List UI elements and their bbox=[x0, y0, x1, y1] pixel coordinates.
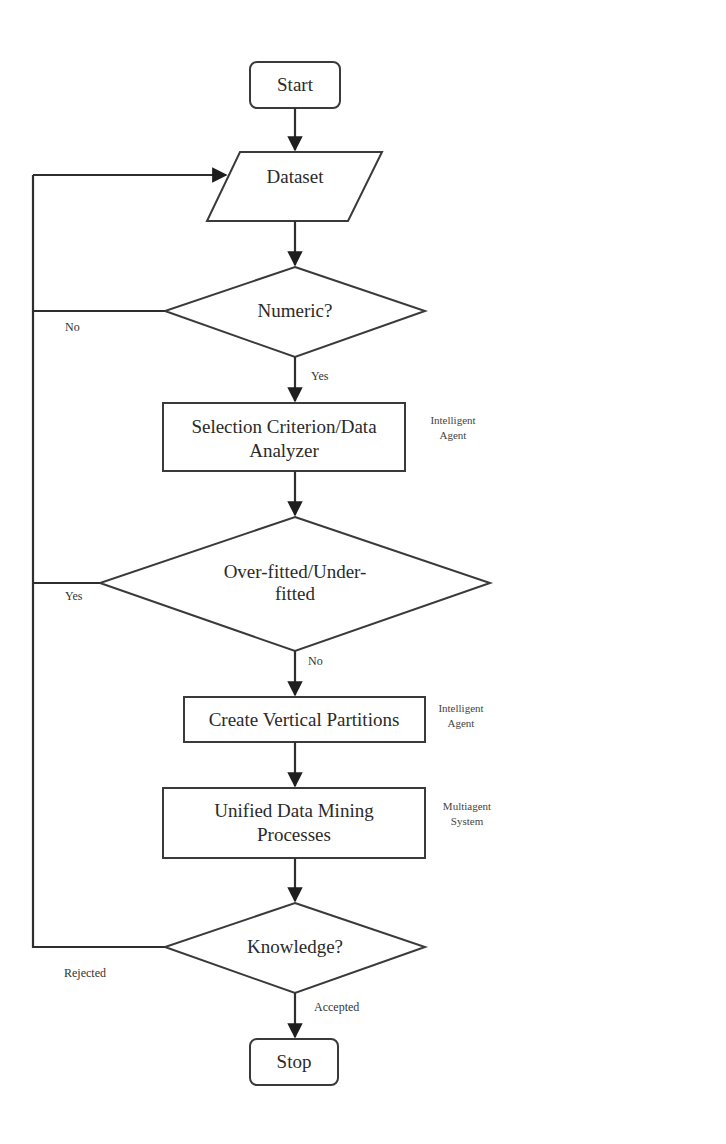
partitions-node: Create Vertical Partitions bbox=[184, 697, 425, 742]
mining-label-line2: Processes bbox=[257, 824, 331, 845]
mining-note-line1: Multiagent bbox=[443, 800, 491, 812]
numeric-no-label: No bbox=[65, 320, 80, 334]
start-label: Start bbox=[277, 74, 314, 95]
selection-label-line2: Analyzer bbox=[249, 440, 319, 461]
partitions-label: Create Vertical Partitions bbox=[209, 709, 400, 730]
fit-decision-node: Over-fitted/Under- fitted bbox=[100, 517, 490, 651]
stop-label: Stop bbox=[277, 1051, 312, 1072]
numeric-label: Numeric? bbox=[258, 300, 333, 321]
mining-label-line1: Unified Data Mining bbox=[214, 800, 374, 821]
partitions-note-line2: Agent bbox=[448, 717, 475, 729]
mining-process-shape bbox=[163, 788, 425, 858]
knowledge-label: Knowledge? bbox=[247, 936, 343, 957]
dataset-label: Dataset bbox=[267, 166, 325, 187]
fit-label-line1: Over-fitted/Under- bbox=[224, 561, 367, 582]
knowledge-rejected-label: Rejected bbox=[64, 966, 106, 980]
stop-node: Stop bbox=[250, 1039, 338, 1085]
start-node: Start bbox=[250, 62, 340, 108]
mining-note-line2: System bbox=[451, 815, 484, 827]
selection-node: Selection Criterion/Data Analyzer bbox=[163, 403, 405, 471]
dataset-node: Dataset bbox=[207, 152, 382, 221]
fit-no-label: No bbox=[308, 654, 323, 668]
selection-note-line1: Intelligent bbox=[430, 414, 475, 426]
numeric-yes-label: Yes bbox=[311, 369, 329, 383]
knowledge-decision-node: Knowledge? bbox=[165, 903, 425, 993]
partitions-note-line1: Intelligent bbox=[438, 702, 483, 714]
fit-yes-label: Yes bbox=[65, 589, 83, 603]
flowchart: Start Dataset Numeric? Yes Selection Cri… bbox=[0, 0, 726, 1144]
selection-label-line1: Selection Criterion/Data bbox=[191, 416, 377, 437]
numeric-decision-node: Numeric? bbox=[165, 267, 425, 357]
mining-node: Unified Data Mining Processes bbox=[163, 788, 425, 858]
knowledge-accepted-label: Accepted bbox=[314, 1000, 359, 1014]
fit-label-line2: fitted bbox=[275, 583, 316, 604]
selection-note-line2: Agent bbox=[440, 429, 467, 441]
